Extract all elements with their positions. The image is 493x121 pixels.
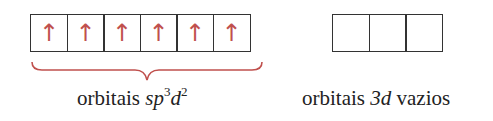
sp3d2-label: orbitais sp3d2 <box>77 86 187 111</box>
spin-up-arrow-icon: ↑ <box>39 21 59 45</box>
spin-up-arrow-icon: ↑ <box>148 21 168 45</box>
orbital-box: ↑ <box>67 14 105 52</box>
orbital-box <box>369 14 407 52</box>
spin-up-arrow-icon: ↑ <box>221 21 241 45</box>
sp3d2-orbital-boxes: ↑ ↑ ↑ ↑ ↑ ↑ <box>30 14 251 53</box>
orbital-box: ↑ <box>140 14 178 52</box>
orbital-box: ↑ <box>103 14 141 52</box>
empty-3d-orbital-boxes <box>332 14 443 53</box>
orbital-box <box>405 14 443 52</box>
empty-3d-label: orbitais 3d vazios <box>302 86 450 111</box>
spin-up-arrow-icon: ↑ <box>75 21 95 45</box>
orbital-box: ↑ <box>30 14 68 52</box>
orbital-box: ↑ <box>176 14 214 52</box>
spin-up-arrow-icon: ↑ <box>112 21 132 45</box>
orbital-box <box>332 14 370 52</box>
curly-brace-icon <box>30 60 264 84</box>
orbital-box: ↑ <box>213 14 251 52</box>
spin-up-arrow-icon: ↑ <box>185 21 205 45</box>
